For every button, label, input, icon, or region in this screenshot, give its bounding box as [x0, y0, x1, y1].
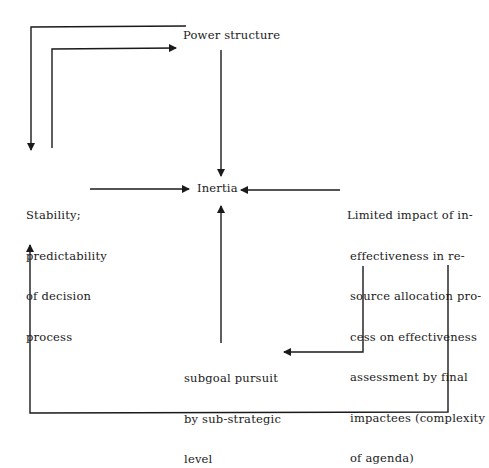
- subgoal-line: by sub-strategic: [184, 413, 281, 427]
- limited-line: source allocation pro-: [347, 290, 485, 304]
- subgoal-line: subgoal pursuit: [184, 372, 281, 386]
- limited-line: cess on effectiveness: [347, 331, 485, 345]
- limited-line: assessment by final: [347, 371, 485, 385]
- limited-line: impactees (complexity: [347, 412, 485, 426]
- node-limited-impact: Limited impact of in- effectiveness in r…: [347, 182, 485, 468]
- node-power-structure: Power structure: [183, 29, 280, 43]
- node-inertia: Inertia: [197, 182, 238, 196]
- node-subgoal: subgoal pursuit by sub-strategic level: [184, 345, 281, 468]
- edge-power-to-stability: [31, 26, 186, 150]
- edge-stability-to-power: [52, 48, 176, 148]
- limited-line: of agenda): [347, 452, 485, 466]
- limited-line: Limited impact of in-: [347, 209, 485, 223]
- subgoal-line: level: [184, 453, 281, 467]
- node-stability: Stability; predictability of decision pr…: [26, 182, 107, 358]
- stability-line: Stability;: [26, 209, 107, 223]
- stability-line: process: [26, 331, 107, 345]
- stability-line: predictability: [26, 250, 107, 264]
- stability-line: of decision: [26, 290, 107, 304]
- limited-line: effectiveness in re-: [347, 250, 485, 264]
